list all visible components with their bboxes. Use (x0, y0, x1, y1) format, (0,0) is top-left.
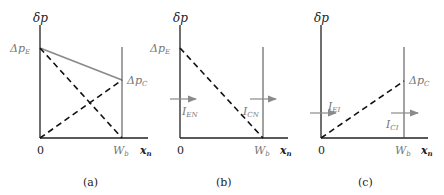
i-ci-label: ICI (385, 118, 399, 132)
y-axis-label: δp (33, 11, 48, 25)
wb-label: Wb (395, 144, 411, 158)
delta-pc-label: ΔpC (408, 74, 430, 88)
diagram: δp ΔpE ΔpC 0 Wb xn (a) δp ΔpE IEN ICN 0 … (0, 0, 444, 195)
i-cn-label: ICN (242, 105, 260, 119)
panel-a: δp ΔpE ΔpC 0 Wb xn (a) (9, 11, 152, 189)
wb-label: Wb (254, 144, 270, 158)
delta-pe-label: ΔpE (149, 42, 170, 56)
caption: (b) (216, 176, 232, 189)
y-axis-label: δp (173, 11, 188, 25)
caption: (c) (358, 176, 373, 189)
origin-label: 0 (177, 144, 184, 157)
i-ei-label: IEI (327, 100, 340, 114)
i-en-label: IEN (181, 105, 198, 119)
x-axis-label: xn (279, 144, 292, 158)
origin-label: 0 (37, 144, 44, 157)
delta-pe-label: ΔpE (9, 42, 30, 56)
collector-dashed-line (40, 80, 122, 138)
total-profile-line (40, 48, 122, 80)
origin-label: 0 (318, 144, 325, 157)
wb-label: Wb (113, 144, 129, 158)
panel-b: δp ΔpE IEN ICN 0 Wb xn (b) (149, 11, 292, 189)
x-axis-label: xn (139, 144, 152, 158)
emitter-dashed-line (180, 48, 263, 138)
x-axis-label: xn (420, 144, 433, 158)
delta-pc-label: ΔpC (126, 74, 148, 88)
y-axis-label: δp (314, 11, 329, 25)
emitter-dashed-line (40, 48, 122, 138)
caption: (a) (83, 176, 98, 189)
panel-c: δp ΔpC IEI ICI 0 Wb xn (c) (310, 11, 433, 189)
